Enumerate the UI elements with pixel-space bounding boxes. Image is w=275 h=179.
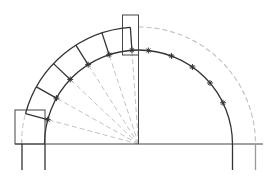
arch-diagram [0, 0, 275, 179]
point-markers [45, 47, 226, 122]
outer-dashed-arc-right [139, 27, 256, 144]
radial-construction-lines [22, 50, 139, 144]
